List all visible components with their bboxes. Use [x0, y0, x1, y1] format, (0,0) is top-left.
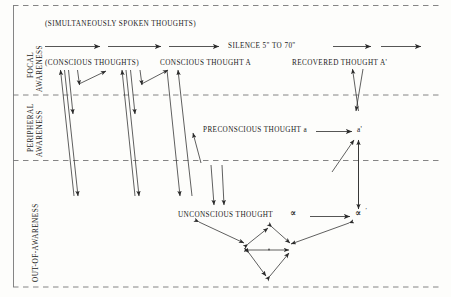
unconscious-alpha-prime-mark: ': [365, 206, 367, 214]
fall-arrow-g2-b: [131, 70, 136, 114]
unconscious-thought-label: UNCONSCIOUS THOUGHT: [178, 211, 273, 219]
fall-arrow-g1-c: [78, 70, 80, 85]
rise-arrow-g2-a: [122, 70, 135, 196]
descend-arrow-1: [211, 165, 214, 205]
descend-to-unconscious: [211, 165, 224, 205]
unconscious-network: [199, 222, 349, 276]
fall-arrow-g1-a: [65, 70, 79, 196]
conscious-thought-a-label: CONSCIOUS THOUGHT A: [160, 59, 251, 67]
fall-arrow-g2-d: [167, 70, 180, 196]
network-center-dot: [268, 249, 270, 251]
diagonal-arrow-g1: [79, 71, 106, 84]
rise-arrow-g1-a: [61, 70, 75, 196]
diagonal-arrow-g2: [142, 70, 169, 84]
diagram-canvas: FOCAL AWARENESS PERIPHERAL AWARENESS OUT…: [0, 0, 451, 297]
band-divider-group: [13, 6, 440, 288]
simultaneously-spoken-thoughts-label: (SIMULTANEOUSLY SPOKEN THOUGHTS): [45, 20, 196, 28]
band-label-focal-line1: FOCAL: [27, 52, 35, 78]
recovered-thought-label: RECOVERED THOUGHT A': [292, 59, 387, 67]
net-link-alpha-left: [199, 222, 244, 243]
fall-arrow-g1-b: [69, 70, 74, 114]
net-link-a: [248, 228, 268, 244]
net-link-b: [272, 227, 290, 243]
preconscious-prime-label: a': [357, 126, 362, 134]
band-label-peripheral-line1: PERIPHERAL: [27, 103, 35, 152]
rise-arrow-recovered: [353, 69, 359, 111]
conscious-thoughts-label: (CONSCIOUS THOUGHTS): [45, 59, 139, 67]
rise-arrow-aprime-diagonal: [332, 140, 354, 172]
exchange-arrows-group-1: [61, 70, 107, 196]
descend-arrow-2: [222, 165, 224, 205]
preconscious-thought-label: PRECONSCIOUS THOUGHT a: [203, 126, 307, 134]
unconscious-alpha-prime-symbol: ∝: [355, 208, 361, 218]
band-label-peripheral-line2: AWARENESS: [36, 110, 44, 157]
band-label-out-of-awareness: OUT-OF-AWARENESS: [32, 203, 40, 282]
fall-arrow-recovered: [356, 69, 363, 111]
unconscious-alpha-symbol: ∝: [290, 208, 296, 218]
net-link-alpha-right: [291, 223, 349, 244]
exchange-arrows-group-2: [122, 70, 201, 196]
rise-arrow-preconscious: [193, 133, 201, 163]
band-label-focal-line2: AWARENESS: [36, 45, 44, 92]
silence-label: SILENCE 5" TO 70": [228, 42, 296, 50]
diagram-svg: [0, 0, 451, 297]
aprime-feeder-arrows: [332, 140, 359, 209]
fall-arrow-g2-c: [140, 70, 142, 85]
rise-arrow-g2-b: [178, 70, 192, 196]
net-link-e: [270, 253, 289, 276]
recovered-thought-arrows: [353, 69, 364, 111]
net-link-d: [249, 253, 266, 276]
